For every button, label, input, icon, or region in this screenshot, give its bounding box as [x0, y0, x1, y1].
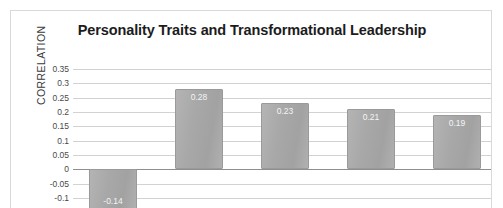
gridline [73, 69, 492, 70]
y-tick-label: 0.05 [29, 151, 69, 160]
bar-1[interactable]: -0.14 [89, 169, 137, 208]
y-tick-label: 0.1 [29, 137, 69, 146]
bar-value-label: 0.23 [262, 107, 308, 116]
bar-2[interactable]: 0.28 [175, 89, 223, 169]
bar-value-label: 0.28 [176, 93, 222, 102]
bar-4[interactable]: 0.21 [347, 109, 395, 169]
y-tick-label: 0.15 [29, 122, 69, 131]
bar-3[interactable]: 0.23 [261, 103, 309, 169]
plot-area: CORRELATION 0.35 0.3 0.25 0.2 0.15 0.1 0… [73, 49, 492, 208]
y-tick-label: 0 [29, 165, 69, 174]
chart-title: Personality Traits and Transformational … [11, 22, 492, 38]
y-tick-label: 0.35 [29, 65, 69, 74]
bar-value-label: 0.19 [434, 119, 480, 128]
y-tick-label: 0.3 [29, 79, 69, 88]
y-tick-label: 0.25 [29, 94, 69, 103]
y-tick-label: -0.05 [29, 180, 69, 189]
bar-value-label: 0.21 [348, 113, 394, 122]
y-tick-label: 0.2 [29, 108, 69, 117]
chart-frame: Personality Traits and Transformational … [10, 10, 492, 208]
bar-5[interactable]: 0.19 [433, 115, 481, 169]
bar-value-label: -0.14 [90, 197, 136, 206]
gridline [73, 83, 492, 84]
y-tick-label: -0.1 [29, 194, 69, 203]
gridline [73, 98, 492, 99]
